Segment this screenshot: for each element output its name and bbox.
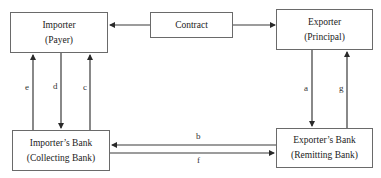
- node-exporter: Exporter (Principal): [276, 9, 373, 50]
- edge-label-c: c: [83, 82, 87, 92]
- edge-label-b: b: [196, 131, 201, 141]
- node-exporters-bank-title: Exporter’s Bank: [293, 133, 355, 148]
- node-contract: Contract: [150, 12, 233, 38]
- edge-label-f: f: [197, 155, 200, 165]
- node-importer-title: Importer: [42, 18, 75, 33]
- node-importers-bank: Importer’s Bank (Collecting Bank): [12, 130, 110, 171]
- edge-label-g: g: [339, 83, 344, 93]
- node-exporters-bank-subtitle: (Remitting Bank): [291, 148, 358, 163]
- node-importers-bank-subtitle: (Collecting Bank): [27, 151, 95, 166]
- node-importer-subtitle: (Payer): [45, 33, 73, 48]
- edge-label-d: d: [53, 81, 58, 91]
- node-importers-bank-title: Importer’s Bank: [30, 136, 92, 151]
- edge-label-e: e: [25, 82, 29, 92]
- node-exporter-title: Exporter: [308, 15, 341, 30]
- node-contract-title: Contract: [175, 18, 208, 33]
- node-importer: Importer (Payer): [10, 12, 108, 53]
- node-exporters-bank: Exporter’s Bank (Remitting Bank): [276, 128, 373, 168]
- node-exporter-subtitle: (Principal): [304, 30, 345, 45]
- edge-label-a: a: [304, 83, 308, 93]
